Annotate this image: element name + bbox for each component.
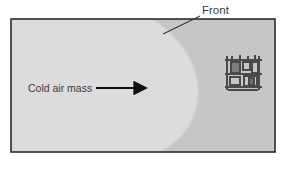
- cold-air-mass-label: Cold air mass: [28, 82, 92, 94]
- diagram-canvas: Front Cold air mass: [0, 0, 286, 170]
- cold-front-diagram: Front Cold air mass: [0, 0, 286, 170]
- front-label: Front: [202, 4, 230, 16]
